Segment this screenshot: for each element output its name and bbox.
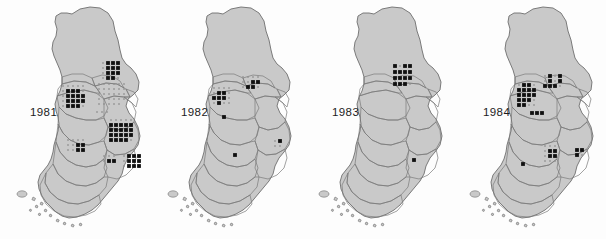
finland-map-1982 (151, 0, 302, 239)
finland-map-1981 (0, 0, 151, 239)
map-panel-1983: 1983 (302, 0, 453, 239)
map-panel-1981: 1981 (0, 0, 151, 239)
year-label-1983: 1983 (332, 106, 359, 118)
year-label-1982: 1982 (181, 106, 208, 118)
year-label-1981: 1981 (30, 106, 57, 118)
finland-map-1984 (453, 0, 604, 239)
finland-map-1983 (302, 0, 453, 239)
map-panel-1984: 1984 (453, 0, 604, 239)
year-label-1984: 1984 (483, 106, 510, 118)
map-panel-1982: 1982 (151, 0, 302, 239)
distribution-maps-figure: 1981198219831984 (0, 0, 606, 239)
